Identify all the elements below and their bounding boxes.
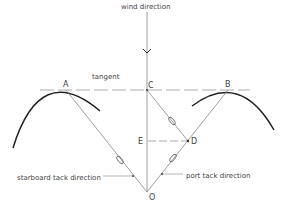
point-e-label: E	[138, 137, 143, 146]
tangent-label: tangent	[92, 73, 120, 81]
right-layline-arc	[192, 93, 274, 131]
point-c-label: C	[148, 81, 154, 90]
port-tack-label: port tack direction	[186, 172, 250, 180]
cd-line	[147, 90, 188, 141]
point-a-label: A	[63, 80, 69, 89]
tacking-diagram: wind direction tangent starboard tack di…	[0, 0, 281, 212]
point-d-dot	[187, 140, 189, 142]
left-layline-arc	[13, 92, 100, 148]
starboard-dot	[132, 175, 134, 177]
point-b-label: B	[225, 80, 231, 89]
boat-icon	[169, 153, 178, 163]
wind-direction-label: wind direction	[121, 3, 170, 11]
boat-icon	[116, 155, 125, 165]
point-o-label: O	[149, 193, 155, 202]
point-d-label: D	[191, 137, 197, 146]
starboard-tack-label: starboard tack direction	[17, 174, 101, 182]
port-dot	[161, 173, 163, 175]
